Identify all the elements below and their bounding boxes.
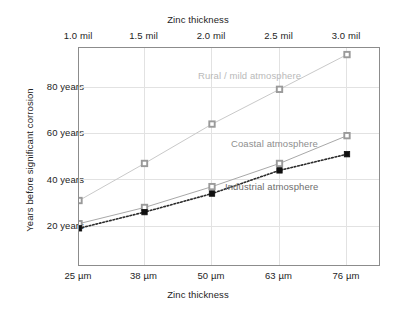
top-tick-label-2: 1.5 mil [129,30,158,41]
chart-figure: Zinc thickness 1.0 mil 1.5 mil 2.0 mil 2… [0,0,396,311]
top-tick-label-4: 2.5 mil [264,30,293,41]
data-point [277,168,282,173]
data-point [277,87,282,92]
bottom-tick-label-2: 38 µm [130,270,157,281]
top-tick-label-5: 3.0 mil [332,30,361,41]
data-point [142,209,147,214]
data-point [344,151,349,156]
data-point [277,161,282,166]
bottom-axis-title: Zinc thickness [0,289,396,300]
top-tick-label-1: 1.0 mil [64,30,93,41]
top-tick-label-3: 2.0 mil [197,30,226,41]
bottom-tick-label-1: 25 µm [64,270,91,281]
data-point [79,198,82,203]
y-axis-title: Years before significant corrosion [24,60,35,260]
data-point [209,184,214,189]
top-axis-title: Zinc thickness [0,14,396,25]
bottom-tick-label-4: 63 µm [265,270,292,281]
series-label-industrial: Industrial atmosphere [225,181,318,192]
series-label-rural: Rural / mild atmosphere [198,70,301,81]
bottom-tick-label-3: 50 µm [197,270,224,281]
data-point [209,191,214,196]
bottom-tick-label-5: 76 µm [332,270,359,281]
data-point [79,226,82,231]
data-point [209,121,214,126]
data-point [344,133,349,138]
series-label-coastal: Coastal atmosphere [231,138,318,149]
data-point [142,161,147,166]
data-point [344,52,349,57]
